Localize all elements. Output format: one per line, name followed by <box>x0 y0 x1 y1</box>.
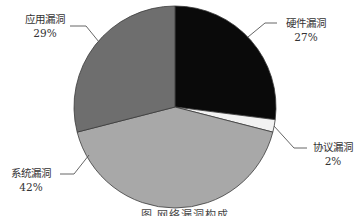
leader-line-hardware <box>248 23 277 37</box>
label-hardware-name: 硬件漏洞 <box>277 16 335 30</box>
label-application: 应用漏洞 29% <box>16 12 74 40</box>
label-hardware: 硬件漏洞 27% <box>277 16 335 44</box>
label-system: 系统漏洞 42% <box>2 166 60 194</box>
leader-line-system <box>60 155 89 174</box>
figure-caption: 图 网络漏洞构成 <box>110 206 260 216</box>
label-hardware-pct: 27% <box>277 30 335 44</box>
label-application-pct: 29% <box>16 26 74 40</box>
label-system-name: 系统漏洞 <box>2 166 60 180</box>
pie-slice-0 <box>175 6 276 120</box>
leader-line-application <box>70 26 99 42</box>
leader-line-protocol <box>274 126 307 148</box>
label-protocol-name: 协议漏洞 <box>305 140 361 154</box>
label-system-pct: 42% <box>2 180 60 194</box>
label-protocol: 协议漏洞 2% <box>305 140 361 168</box>
label-protocol-pct: 2% <box>305 154 361 168</box>
label-application-name: 应用漏洞 <box>16 12 74 26</box>
pie-slices <box>74 6 276 208</box>
